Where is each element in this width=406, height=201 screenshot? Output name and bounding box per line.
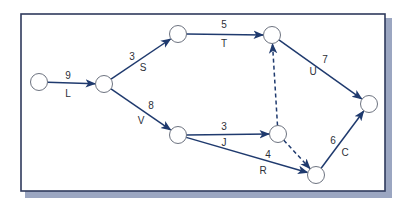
- event-node-n5: [170, 127, 187, 144]
- edge-label-c-activity: C: [341, 147, 348, 158]
- event-node-n1: [31, 74, 48, 91]
- edge-label-j-duration: 3: [221, 121, 227, 132]
- edge-label-v-duration: 8: [148, 100, 154, 111]
- edge-label-j-activity: J: [222, 137, 227, 148]
- edge-label-l-activity: L: [65, 88, 71, 99]
- event-node-n8: [361, 96, 378, 113]
- event-node-n7: [308, 167, 325, 184]
- edge-label-u-duration: 7: [322, 54, 328, 65]
- edge-label-r-duration: 4: [265, 149, 271, 160]
- network-diagram: 9 L 3 S 5 T 7 U 8 V 3 J 4 R 6 C: [0, 0, 406, 201]
- edge-label-r-activity: R: [259, 165, 266, 176]
- event-node-n3: [170, 26, 187, 43]
- edge-label-s-duration: 3: [129, 51, 135, 62]
- event-node-n4: [264, 27, 281, 44]
- event-node-n2: [96, 76, 113, 93]
- activity-arrow-t: [187, 34, 264, 35]
- edge-label-t-activity: T: [221, 38, 227, 49]
- diagram-frame: [21, 14, 385, 191]
- edge-label-s-activity: S: [140, 62, 147, 73]
- edge-label-u-activity: U: [309, 66, 316, 77]
- activity-arrow-j: [187, 134, 270, 135]
- edge-label-v-activity: V: [138, 115, 145, 126]
- event-node-n6: [270, 126, 287, 143]
- edge-label-t-duration: 5: [221, 19, 227, 30]
- edge-label-c-duration: 6: [330, 135, 336, 146]
- edge-label-l-duration: 9: [65, 70, 71, 81]
